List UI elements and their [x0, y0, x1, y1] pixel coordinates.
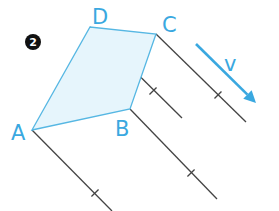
trajectory-line-b: [130, 109, 217, 199]
figure-number-badge: 2: [25, 34, 41, 50]
trajectory-line-a: [32, 130, 112, 211]
arrow-shaft: [196, 44, 247, 95]
badge-number: 2: [29, 36, 37, 49]
vertex-label-d: D: [92, 5, 108, 29]
quadrilateral-abcd: [32, 27, 156, 130]
translation-diagram: 2 DCBA v: [0, 0, 279, 211]
vertex-label-c: C: [162, 13, 177, 37]
vertex-label-b: B: [115, 117, 129, 141]
velocity-label: v: [224, 52, 236, 76]
vertex-label-a: A: [11, 121, 26, 145]
